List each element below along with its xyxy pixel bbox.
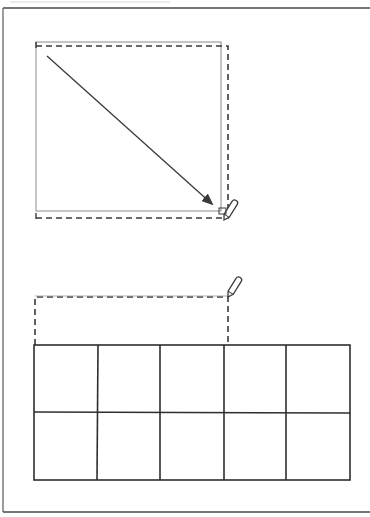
top-panel-drag-gesture — [36, 42, 239, 222]
bottom-panel-grid-selection — [34, 276, 350, 480]
diagram-canvas — [0, 0, 370, 517]
pen-stylus-icon — [225, 276, 242, 299]
table-grid — [34, 345, 350, 480]
original-rectangle — [36, 42, 221, 211]
grid-col-divider — [97, 345, 98, 480]
grid-row-divider — [34, 412, 350, 413]
dashed-selection-rectangle — [35, 297, 228, 345]
figure-frame — [3, 8, 370, 512]
pen-stylus-icon — [221, 199, 238, 222]
drag-arrow — [47, 56, 212, 204]
